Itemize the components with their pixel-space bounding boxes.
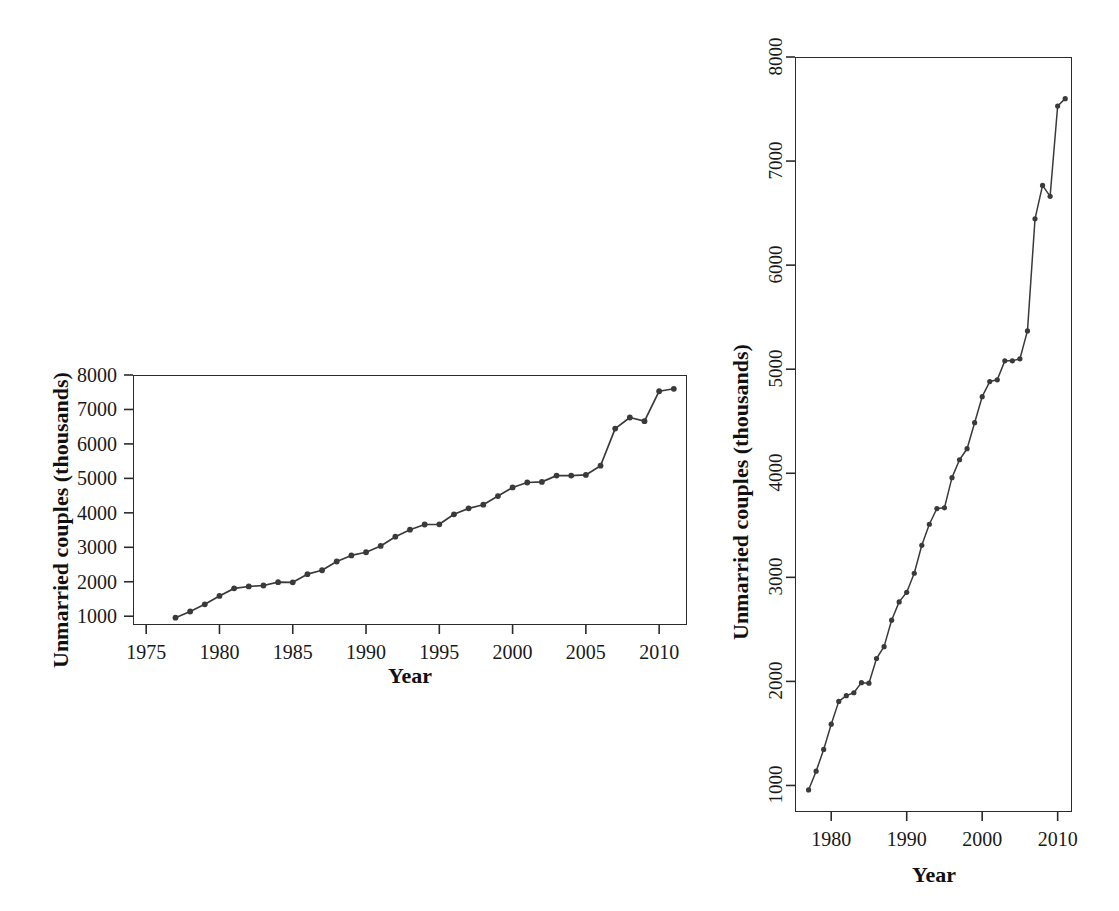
data-point-marker <box>510 485 516 491</box>
data-point-marker <box>612 426 618 432</box>
data-point-marker <box>912 571 917 576</box>
data-point-marker <box>889 618 894 623</box>
data-point-marker <box>583 472 589 478</box>
y-tick-label: 7000 <box>766 138 785 184</box>
data-point-marker <box>231 585 237 591</box>
data-point-marker <box>814 769 819 774</box>
data-point-marker <box>348 553 354 559</box>
x-tick-label: 2010 <box>1038 829 1078 849</box>
y-tick-label: 6000 <box>766 242 785 288</box>
data-point-marker <box>466 505 472 511</box>
x-tick-label: 1980 <box>811 829 851 849</box>
y-tick-label: 1000 <box>766 762 785 808</box>
data-point-marker <box>829 722 834 727</box>
x-axis-title-wide: Year <box>388 663 432 689</box>
data-point-marker <box>881 644 886 649</box>
data-point-marker <box>1032 216 1037 221</box>
data-point-marker <box>290 579 296 585</box>
data-point-marker <box>1055 103 1060 108</box>
data-point-marker <box>897 599 902 604</box>
data-point-marker <box>866 681 871 686</box>
data-point-marker <box>334 559 340 565</box>
data-point-marker <box>927 522 932 527</box>
data-point-marker <box>851 690 856 695</box>
y-tick-label: 5000 <box>766 346 785 392</box>
chart-panel-tall: 10002000300040005000600070008000 1980199… <box>700 0 1119 911</box>
data-point-marker <box>942 505 947 510</box>
data-point-marker <box>436 521 442 527</box>
data-point-marker <box>173 615 179 621</box>
data-point-marker <box>1040 183 1045 188</box>
data-point-marker <box>1063 96 1068 101</box>
data-point-marker <box>378 543 384 549</box>
data-point-marker <box>1010 358 1015 363</box>
data-point-marker <box>919 543 924 548</box>
plot-canvas-tall <box>700 0 1119 911</box>
data-point-marker <box>642 418 648 424</box>
x-tick-label: 1990 <box>887 829 927 849</box>
data-point-marker <box>407 527 413 533</box>
x-tick-label: 1985 <box>273 642 313 662</box>
data-point-marker <box>671 386 677 392</box>
x-tick-label: 1990 <box>346 642 386 662</box>
data-point-marker <box>539 479 545 485</box>
data-point-marker <box>524 480 530 486</box>
data-point-marker <box>972 420 977 425</box>
x-axis-title-tall: Year <box>912 862 956 888</box>
data-point-marker <box>1017 356 1022 361</box>
data-point-marker <box>1002 358 1007 363</box>
data-point-marker <box>275 579 281 585</box>
data-point-marker <box>202 601 208 607</box>
data-point-marker <box>554 473 560 479</box>
data-point-marker <box>363 549 369 555</box>
data-point-marker <box>964 446 969 451</box>
data-point-marker <box>821 747 826 752</box>
x-tick-label: 1995 <box>419 642 459 662</box>
x-tick-label: 2000 <box>962 829 1002 849</box>
x-tick-label: 2010 <box>639 642 679 662</box>
y-tick-label: 3000 <box>766 554 785 600</box>
data-point-marker <box>451 511 457 517</box>
data-point-marker <box>187 609 193 615</box>
data-point-marker <box>957 457 962 462</box>
data-point-marker <box>598 463 604 469</box>
data-point-marker <box>987 379 992 384</box>
data-point-marker <box>836 699 841 704</box>
data-point-marker <box>1048 194 1053 199</box>
data-point-marker <box>495 493 501 499</box>
data-point-marker <box>949 475 954 480</box>
plot-canvas-wide <box>0 0 700 911</box>
data-point-marker <box>874 656 879 661</box>
data-point-marker <box>1025 328 1030 333</box>
data-point-marker <box>422 522 428 528</box>
chart-panel-wide: 10002000300040005000600070008000 1975198… <box>0 0 700 911</box>
data-point-marker <box>656 388 662 394</box>
data-point-marker <box>392 534 398 540</box>
data-point-marker <box>480 502 486 508</box>
x-tick-label: 2000 <box>493 642 533 662</box>
y-axis-title-tall: Unmarried couples (thousands) <box>728 344 754 640</box>
y-tick-label: 2000 <box>766 658 785 704</box>
data-point-marker <box>806 787 811 792</box>
data-point-marker <box>980 394 985 399</box>
y-tick-label: 4000 <box>766 450 785 496</box>
data-point-marker <box>319 567 325 573</box>
data-point-marker <box>261 583 267 589</box>
data-point-marker <box>305 571 311 577</box>
data-point-marker <box>217 593 223 599</box>
data-line-series-unmarried-couples <box>176 389 674 618</box>
x-tick-label: 1975 <box>126 642 166 662</box>
data-point-marker <box>859 680 864 685</box>
x-tick-label: 2005 <box>566 642 606 662</box>
x-tick-label: 1980 <box>199 642 239 662</box>
data-point-marker <box>844 693 849 698</box>
y-tick-label: 8000 <box>766 34 785 80</box>
data-point-marker <box>246 584 252 590</box>
data-point-marker <box>568 473 574 479</box>
data-point-marker <box>627 415 633 421</box>
data-line-series-unmarried-couples <box>809 99 1066 790</box>
data-point-marker <box>934 506 939 511</box>
y-axis-title-wide: Unmarried couples (thousands) <box>48 372 74 668</box>
data-point-marker <box>995 377 1000 382</box>
data-point-marker <box>904 590 909 595</box>
